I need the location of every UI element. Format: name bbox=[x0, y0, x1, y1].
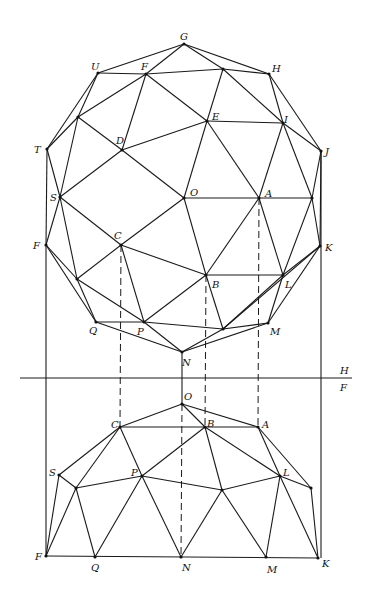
elevation-vertex bbox=[93, 555, 96, 558]
plan-vertex bbox=[281, 273, 284, 276]
plan-label-f: F bbox=[33, 241, 40, 251]
plan-vertex bbox=[180, 350, 183, 353]
elevation-vertex bbox=[220, 488, 223, 491]
elevation-label-o: O bbox=[184, 392, 192, 402]
elevation-edge bbox=[59, 475, 76, 488]
plan-edge bbox=[146, 44, 184, 74]
plan-label-d: D bbox=[116, 136, 124, 146]
elevation-edge bbox=[311, 488, 318, 558]
plan-vertex bbox=[142, 320, 145, 323]
elevation-vertex bbox=[180, 402, 183, 405]
plan-label-u: U bbox=[91, 62, 99, 72]
elevation-edge bbox=[266, 476, 280, 557]
plan-vertex bbox=[144, 72, 147, 75]
plan-label-o: O bbox=[190, 188, 198, 198]
plan-vertex bbox=[120, 148, 123, 151]
diagram-canvas bbox=[0, 0, 378, 607]
plan-edge bbox=[46, 149, 47, 245]
elevation-label-b: B bbox=[207, 419, 214, 429]
elevation-label-f: F bbox=[35, 552, 42, 562]
plan-edge bbox=[144, 322, 223, 329]
plan-vertex bbox=[221, 327, 224, 330]
plan-label-g: G bbox=[180, 32, 188, 42]
elevation-edge bbox=[46, 475, 59, 556]
plan-vertex bbox=[94, 320, 97, 323]
elevation-label-q: Q bbox=[91, 563, 99, 573]
plan-edge bbox=[259, 123, 283, 198]
elevation-edge bbox=[76, 488, 95, 557]
plan-vertex bbox=[257, 196, 260, 199]
plan-label-l: L bbox=[285, 280, 292, 290]
plan-vertex bbox=[119, 243, 122, 246]
plan-label-a: A bbox=[265, 189, 272, 199]
plan-vertex bbox=[204, 273, 207, 276]
plan-edge bbox=[223, 69, 283, 123]
plan-edge bbox=[259, 198, 283, 275]
plan-edge bbox=[47, 149, 60, 197]
plan-label-i: I bbox=[284, 115, 288, 125]
elevation-label-n: N bbox=[182, 563, 191, 573]
plan-edge bbox=[121, 245, 144, 322]
plan-vertex bbox=[75, 277, 78, 280]
plan-edge bbox=[144, 275, 206, 322]
plan-edge bbox=[269, 74, 283, 123]
elevation-label-k: K bbox=[322, 559, 329, 569]
plan-label-q: Q bbox=[89, 326, 97, 336]
elevation-edge bbox=[181, 490, 222, 557]
plan-edge bbox=[184, 44, 223, 69]
plan-label-s: S bbox=[50, 193, 57, 203]
elevation-label-a: A bbox=[262, 420, 269, 430]
elevation-edge bbox=[222, 476, 280, 490]
plan-vertex bbox=[266, 321, 269, 324]
plan-edge bbox=[77, 245, 121, 279]
elevation-edge bbox=[142, 476, 181, 557]
plan-vertex bbox=[267, 72, 270, 75]
plan-edge bbox=[312, 151, 321, 198]
plan-edge bbox=[206, 198, 259, 275]
elevation-vertex bbox=[44, 554, 47, 557]
plan-edge bbox=[98, 73, 146, 74]
elevation-label-m: M bbox=[267, 565, 277, 575]
elevation-vertex bbox=[309, 486, 312, 489]
elevation-edge bbox=[59, 427, 120, 475]
plan-vertex bbox=[58, 195, 61, 198]
plan-edge bbox=[223, 246, 320, 329]
plan-edge bbox=[269, 74, 321, 151]
plan-edge bbox=[60, 197, 77, 279]
elevation-edge bbox=[222, 490, 266, 557]
fold-label-f: F bbox=[340, 383, 347, 393]
projector-dashed bbox=[120, 245, 121, 427]
plan-vertex bbox=[318, 244, 321, 247]
plan-vertex bbox=[76, 115, 79, 118]
plan-edge bbox=[46, 245, 77, 279]
elevation-vertex bbox=[264, 555, 267, 558]
plan-edge bbox=[122, 74, 146, 150]
projector-dashed bbox=[205, 275, 206, 427]
elevation-label-c: C bbox=[111, 420, 119, 430]
elevation-edge bbox=[46, 488, 76, 556]
plan-edge bbox=[184, 198, 206, 275]
elevation-vertex bbox=[179, 555, 182, 558]
plan-edge bbox=[122, 121, 207, 150]
plan-edge bbox=[122, 150, 184, 198]
plan-vertex bbox=[44, 243, 47, 246]
plan-vertex bbox=[182, 196, 185, 199]
plan-edge bbox=[46, 245, 96, 322]
elevation-label-l: L bbox=[283, 468, 290, 478]
plan-label-t: T bbox=[34, 145, 41, 155]
fold-label-h: H bbox=[340, 366, 349, 376]
plan-vertex bbox=[45, 147, 48, 150]
elevation-vertex bbox=[140, 474, 143, 477]
plan-edge bbox=[144, 322, 182, 352]
plan-vertex bbox=[221, 67, 224, 70]
plan-edge bbox=[121, 245, 206, 275]
elevation-edge bbox=[95, 476, 142, 557]
elevation-vertex bbox=[256, 425, 259, 428]
plan-label-f: F bbox=[141, 62, 148, 72]
plan-edge bbox=[47, 73, 98, 149]
plan-edge bbox=[312, 198, 320, 246]
elevation-vertex bbox=[316, 556, 319, 559]
plan-edge bbox=[46, 197, 60, 245]
elevation-edge bbox=[120, 404, 182, 427]
plan-label-b: B bbox=[212, 280, 219, 290]
